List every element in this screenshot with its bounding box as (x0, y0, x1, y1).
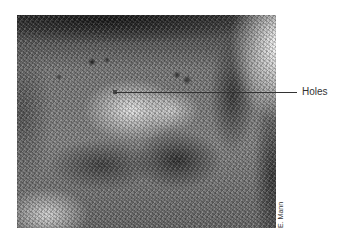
micrograph-dark-spots (17, 15, 276, 228)
photo-credit: E. Mann (276, 198, 286, 228)
callout-label-holes: Holes (302, 86, 328, 98)
micrograph-image (17, 15, 276, 228)
callout-leader-line (115, 92, 297, 93)
